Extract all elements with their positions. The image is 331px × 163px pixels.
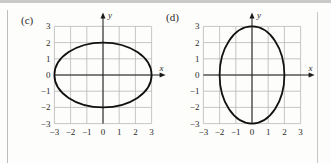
x-axis-arrow-icon: [160, 73, 166, 78]
y-tick-label: 3: [195, 21, 200, 31]
y-axis-arrow-icon: [250, 12, 255, 18]
x-tick-label: −2: [66, 127, 76, 137]
x-tick-label: −1: [82, 127, 92, 137]
x-tick-label: 0: [250, 127, 255, 137]
x-tick-label: −1: [231, 127, 241, 137]
x-tick-label: 2: [282, 127, 287, 137]
y-tick-label: −2: [41, 102, 51, 112]
x-tick-label: −3: [50, 127, 60, 137]
chart-panel-c: xy−3−2−101233210−1−2−3(c): [21, 10, 166, 136]
x-tick-label: 2: [133, 127, 138, 137]
y-tick-label: 3: [46, 21, 51, 31]
y-tick-label: −1: [190, 86, 200, 96]
ellipse-plots: xy−3−2−101233210−1−2−3(c)xy−3−2−10123321…: [0, 0, 331, 163]
y-tick-label: −1: [41, 86, 51, 96]
x-tick-label: −2: [215, 127, 225, 137]
y-tick-label: −3: [190, 119, 200, 129]
y-axis-label: y: [107, 10, 112, 20]
x-axis-label: x: [308, 63, 313, 73]
y-tick-label: 2: [195, 38, 200, 48]
y-tick-label: 0: [46, 70, 51, 80]
x-tick-label: 3: [149, 127, 154, 137]
chart-panel-d: xy−3−2−101233210−1−2−3(d): [166, 10, 315, 136]
x-axis-arrow-icon: [309, 73, 315, 78]
x-tick-label: −3: [199, 127, 209, 137]
x-tick-label: 1: [117, 127, 122, 137]
y-tick-label: 0: [195, 70, 200, 80]
x-tick-label: 3: [298, 127, 303, 137]
y-tick-label: 2: [46, 38, 51, 48]
y-axis-arrow-icon: [101, 12, 106, 18]
panel-label: (c): [21, 14, 34, 27]
x-tick-label: 1: [266, 127, 271, 137]
panel-label: (d): [166, 11, 179, 24]
y-tick-label: −3: [41, 119, 51, 129]
y-tick-label: −2: [190, 102, 200, 112]
y-tick-label: 1: [46, 54, 51, 64]
x-tick-label: 0: [101, 127, 106, 137]
y-axis-label: y: [256, 10, 261, 20]
x-axis-label: x: [159, 63, 164, 73]
y-tick-label: 1: [195, 54, 200, 64]
